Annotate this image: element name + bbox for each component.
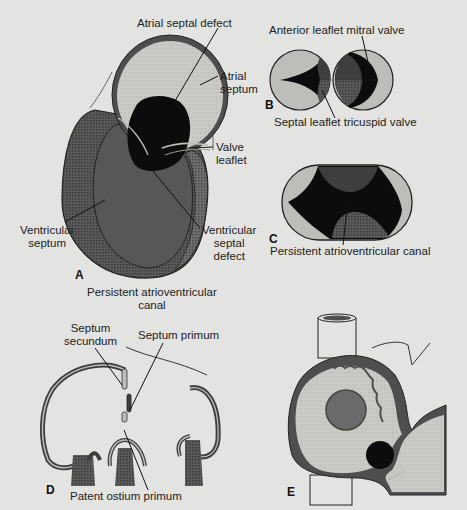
label-persistent-av-canal: Persistent atrioventricular canal [270,245,430,258]
caption-panel-a: Persistent atrioventricular canal [87,286,217,312]
label-anterior-leaflet-mitral-valve: Anterior leaflet mitral valve [269,24,405,37]
label-atrial-septal-defect: Atrial septal defect [137,17,232,30]
label-septal-leaflet-tricuspid-valve: Septal leaflet tricuspid valve [274,116,417,129]
panel-letter-c: C [269,232,278,246]
label-vsd-line2: septal [202,237,256,250]
label-patent-ostium-primum: Patent ostium primum [70,490,182,503]
label-ventricular-septum-line2: septum [20,237,74,250]
label-septum-primum: Septum primum [138,329,219,342]
panel-letter-d: D [46,483,55,497]
panel-c-common-valve-illustration [282,165,412,245]
label-ventricular-septal-defect: Ventricular septal defect [202,224,256,263]
panel-d-septum-illustration [42,343,218,490]
label-valve-leaflet-line2: leaflet [216,154,247,167]
caption-panel-a-line1: Persistent atrioventricular [87,286,217,299]
label-atrial-septum: Atrial septum [220,70,258,96]
label-valve-leaflet-line1: Valve [216,141,247,154]
label-septum-secundum-line1: Septum [64,322,117,335]
panel-letter-e: E [287,485,295,499]
label-ventricular-septum: Ventricular septum [20,224,74,250]
panel-b-valves-illustration [270,36,393,118]
figure-canvas: Atrial septal defect Atrial septum Valve… [0,0,467,510]
label-vsd-line3: defect [202,250,256,263]
label-septum-secundum: Septum secundum [64,322,117,348]
panel-letter-a: A [75,268,84,282]
label-vsd-line1: Ventricular [202,224,256,237]
label-atrial-septum-line2: septum [220,83,258,96]
label-ventricular-septum-line1: Ventricular [20,224,74,237]
label-atrial-septum-line1: Atrial [220,70,258,83]
label-valve-leaflet: Valve leaflet [216,141,247,167]
panel-letter-b: B [265,98,274,112]
caption-panel-a-line2: canal [87,299,217,312]
label-septum-secundum-line2: secundum [64,335,117,348]
panel-e-opened-heart-illustration [288,314,446,505]
